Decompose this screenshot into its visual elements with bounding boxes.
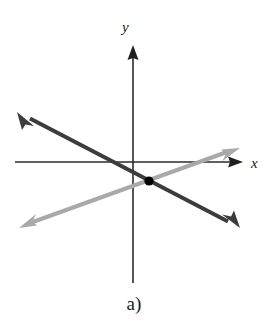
coordinate-plane-graphic <box>0 0 268 331</box>
intersection-point-dot <box>144 176 153 185</box>
line-1-dark-gray <box>17 112 240 228</box>
figure-caption: a) <box>0 294 268 313</box>
figure-container: y x a) <box>0 0 268 331</box>
y-axis <box>128 45 139 283</box>
y-axis-arrowhead-icon <box>128 45 139 60</box>
line-2-light-gray <box>19 148 240 228</box>
line-1-segment <box>30 119 228 222</box>
x-axis-label: x <box>251 156 258 171</box>
x-axis-arrowhead-icon <box>228 157 243 168</box>
y-axis-label: y <box>122 20 129 35</box>
